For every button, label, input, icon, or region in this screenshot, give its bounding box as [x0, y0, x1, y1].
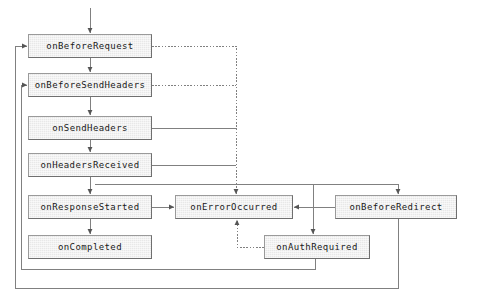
node-onAuthRequired[interactable]: onAuthRequired [264, 235, 370, 259]
node-label: onResponseStarted [41, 203, 140, 212]
node-label: onCompleted [58, 243, 122, 252]
flow-diagram: onBeforeRequestonBeforeSendHeadersonSend… [0, 0, 477, 303]
node-onErrorOccurred[interactable]: onErrorOccurred [175, 195, 293, 219]
node-onBeforeSendHeaders[interactable]: onBeforeSendHeaders [28, 73, 152, 97]
node-onSendHeaders[interactable]: onSendHeaders [28, 116, 152, 140]
node-label: onSendHeaders [52, 124, 128, 133]
node-label: onErrorOccurred [190, 203, 277, 212]
nodes-layer: onBeforeRequestonBeforeSendHeadersonSend… [0, 0, 477, 303]
node-onCompleted[interactable]: onCompleted [28, 235, 152, 259]
node-label: onBeforeRedirect [349, 203, 442, 212]
node-label: onBeforeRequest [46, 42, 133, 51]
node-label: onBeforeSendHeaders [35, 81, 146, 90]
node-label: onHeadersReceived [41, 161, 140, 170]
node-label: onAuthRequired [276, 243, 357, 252]
node-onHeadersReceived[interactable]: onHeadersReceived [28, 153, 152, 177]
node-onBeforeRedirect[interactable]: onBeforeRedirect [335, 195, 457, 219]
node-onBeforeRequest[interactable]: onBeforeRequest [28, 34, 152, 58]
node-onResponseStarted[interactable]: onResponseStarted [28, 195, 152, 219]
